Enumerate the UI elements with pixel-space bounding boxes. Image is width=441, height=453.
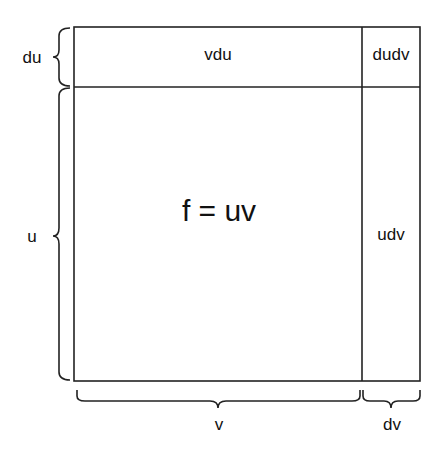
brace-v (77, 390, 360, 408)
dv-brace-label: dv (383, 416, 401, 433)
right-strip-label: udv (377, 226, 404, 243)
u-brace-label: u (27, 228, 36, 245)
corner-label: dudv (373, 46, 410, 63)
brace-u (53, 88, 70, 380)
brace-du (53, 28, 70, 86)
v-brace-label: v (215, 416, 224, 433)
main-area-label: f = uv (182, 196, 256, 226)
top-strip-label: vdu (204, 46, 231, 63)
du-brace-label: du (23, 49, 42, 66)
brace-dv (363, 390, 420, 408)
